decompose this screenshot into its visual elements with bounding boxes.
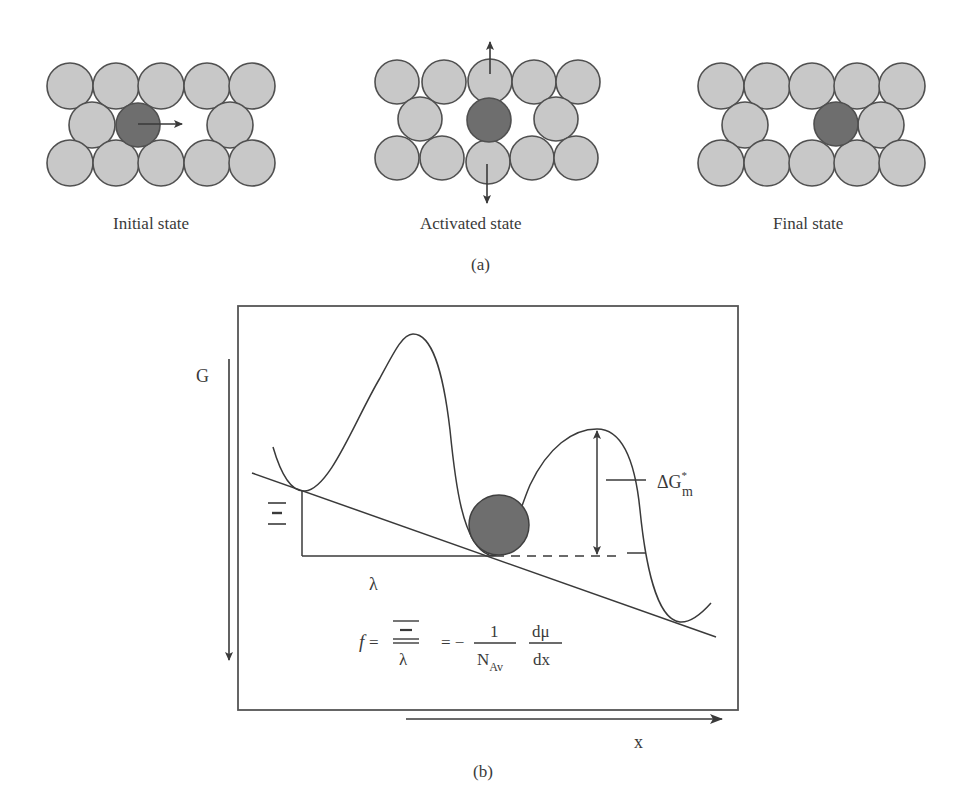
panel-a-caption: (a): [471, 255, 490, 275]
eq-frac1-den: λ: [399, 650, 408, 669]
eq-frac3-num: dμ: [532, 622, 550, 641]
force-symbol-xi: [268, 503, 286, 524]
final-state-lattice: [698, 63, 925, 186]
moving-atom: [467, 98, 511, 142]
final-state-label: Final state: [773, 214, 843, 234]
moving-atom: [116, 103, 160, 147]
eq-lhs: f: [359, 631, 367, 652]
eq-frac3-den: dx: [533, 650, 551, 669]
diffusing-atom: [469, 495, 529, 555]
eq-frac2-num: 1: [490, 622, 499, 641]
panel-b-caption: (b): [473, 762, 493, 782]
lambda-label: λ: [369, 574, 378, 594]
y-axis-label: G: [196, 366, 209, 386]
activated-state-label: Activated state: [420, 214, 522, 234]
moving-atom: [814, 102, 858, 146]
free-energy-curve: [273, 334, 711, 622]
eq-equals-2: = −: [441, 633, 464, 652]
initial-state-label: Initial state: [113, 214, 189, 234]
eq-equals-1: =: [369, 633, 379, 652]
x-axis-label: x: [634, 732, 643, 752]
barrier-label: ΔG*m: [657, 469, 693, 499]
diffusion-diagram: G x λ ΔG*m f = λ = − 1 NAv dμ dx: [0, 0, 969, 793]
eq-frac2-den: NAv: [477, 650, 503, 674]
